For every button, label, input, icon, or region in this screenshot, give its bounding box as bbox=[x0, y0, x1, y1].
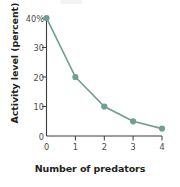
data-point bbox=[72, 74, 78, 80]
data-series-line bbox=[47, 18, 163, 129]
x-axis-ticks bbox=[75, 136, 162, 141]
data-point bbox=[43, 15, 49, 21]
data-point bbox=[159, 126, 165, 132]
chart-figure: Activity level (percent) 40% 30 20 10 0 … bbox=[0, 0, 180, 187]
x-axis-title: Number of predators bbox=[0, 163, 180, 174]
data-point bbox=[101, 103, 107, 109]
data-point-markers bbox=[43, 15, 165, 132]
y-axis-ticks bbox=[42, 18, 47, 107]
plot-area bbox=[0, 0, 180, 187]
axis-lines bbox=[47, 18, 163, 136]
data-point bbox=[130, 118, 136, 124]
